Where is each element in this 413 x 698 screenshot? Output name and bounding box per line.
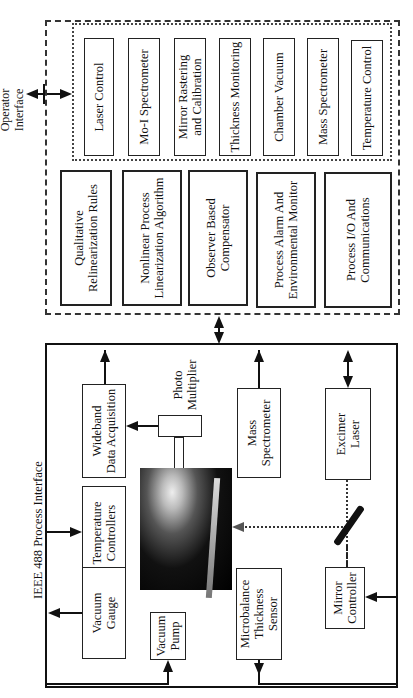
pump-label1: Vacuum <box>154 616 168 657</box>
process-alarm-box: Process Alarm AndEnvironmental Monitor <box>256 172 316 308</box>
nonlinear-label1: Nonlinear Process <box>138 177 152 298</box>
vacuum-pump-box: VacuumPump <box>150 612 186 660</box>
bus-to-pump-h <box>47 683 169 685</box>
photo-multiplier-box <box>158 415 202 437</box>
temp-arrow-icon <box>70 527 82 537</box>
operator-arrow-left-icon <box>26 89 38 99</box>
wideband-label1: Wideband <box>90 389 104 473</box>
observer-label2: Compensator <box>218 198 232 278</box>
mb-label1: Microbalance <box>238 580 252 649</box>
operator-label-line2: Interface <box>12 89 26 132</box>
mc-arrow-icon <box>365 592 377 602</box>
ms-label2: Spectrometer <box>259 400 273 467</box>
mb-to-bus <box>258 683 398 685</box>
gauge-label2: Gauge <box>104 593 118 634</box>
photo-label2: Multiplier <box>185 360 199 411</box>
gauge-arrow-icon <box>48 608 60 618</box>
wideband-arrow-icon <box>100 350 110 362</box>
photo-multiplier-label: PhotoMultiplier <box>170 360 200 410</box>
ieee488-bus-label: IEEE 488 Process Interface <box>30 470 46 590</box>
laser-control-label: Laser Control <box>92 62 106 131</box>
nonlinear-linearization-box: Nonlinear ProcessLinearization Algorithm <box>122 170 182 306</box>
ms-arrow-icon <box>254 350 264 362</box>
ieee488-label-text: IEEE 488 Process Interface <box>31 461 45 599</box>
operator-label-line1: Operator <box>0 89 12 132</box>
deposition-chamber-photo <box>140 468 232 590</box>
excimer-laser-box: ExcimerLaser <box>325 388 371 480</box>
temp-ctrl-label1: Temperature <box>90 502 104 565</box>
mirror-controller-box: MirrorController <box>325 567 365 629</box>
wideband-label2: Data Acquisition <box>104 389 118 473</box>
thickness-monitoring-box: Thickness Monitoring <box>219 38 251 156</box>
laser-label2: Laser <box>348 413 362 455</box>
laser-label1: Excimer <box>334 413 348 455</box>
thickness-monitoring-label: Thickness Monitoring <box>228 42 242 153</box>
mb-label2: Thickness <box>252 580 266 649</box>
gauge-label1: Vacuum <box>90 593 104 634</box>
mass-spectrometer-control-label: Mass Spectrometer <box>316 49 330 145</box>
mass-spectrometer-control-box: Mass Spectrometer <box>307 38 339 156</box>
observer-compensator-box: Observer BasedCompensator <box>188 170 248 306</box>
nonlinear-label2: Linearization Algorithm <box>152 177 166 298</box>
laser-beam-horizontal <box>238 526 346 528</box>
mo-i-spectrometer-label: Mo-I Spectrometer <box>137 49 151 144</box>
alarm-label1: Process Alarm And <box>272 181 286 299</box>
laser-arrow-down-icon <box>343 376 353 388</box>
photo-label1: Photo <box>171 360 185 411</box>
link-arrow-up-icon <box>214 316 224 328</box>
observer-label1: Observer Based <box>204 198 218 278</box>
microbalance-sensor-box: MicrobalanceThicknessSensor <box>236 568 282 660</box>
mirror-rastering-label1: Mirror Rastering <box>176 55 190 139</box>
operator-interface-label: OperatorInterface <box>0 70 24 150</box>
mirror-rastering-box: Mirror Rasteringand Calibration <box>174 38 206 156</box>
temperature-control-box: Temperature Control <box>351 40 383 156</box>
mo-i-spectrometer-box: Mo-I Spectrometer <box>128 38 160 156</box>
temp-ctrl-label2: Controllers <box>104 502 118 565</box>
temperature-controllers-box: TemperatureControllers <box>82 486 126 580</box>
mass-spectrometer-box: MassSpectrometer <box>237 388 281 478</box>
wideband-daq-box: WidebandData Acquisition <box>82 384 126 478</box>
mc-label1: Mirror <box>331 572 345 623</box>
mb-arrow-icon <box>254 663 264 675</box>
beam-arrow-icon <box>232 522 244 532</box>
alarm-label2: Environmental Monitor <box>286 181 300 299</box>
mb-label3: Sensor <box>266 580 280 649</box>
vacuum-gauge-box: VacuumGauge <box>82 567 126 659</box>
pump-arrow-icon <box>163 660 173 672</box>
chamber-vacuum-box: Chamber Vacuum <box>263 38 295 156</box>
chamber-vacuum-label: Chamber Vacuum <box>272 52 286 142</box>
process-io-label1: Process I/O And <box>344 197 358 282</box>
qualitative-relinearization-box: QualitativeRelinearization Rules <box>60 170 112 306</box>
pmt-arrow-icon <box>126 421 138 431</box>
process-io-box: Process I/O AndCommunications <box>324 172 392 308</box>
laser-arrow-up-icon <box>343 350 353 362</box>
ms-label1: Mass <box>245 400 259 467</box>
qualitative-label1: Qualitative <box>72 184 86 292</box>
pmt-light-pipe <box>174 437 184 469</box>
temperature-control-label: Temperature Control <box>360 46 374 150</box>
qualitative-label2: Relinearization Rules <box>86 184 100 292</box>
mirror-rastering-label2: and Calibration <box>190 55 204 139</box>
mc-label2: Controller <box>345 572 359 623</box>
laser-control-box: Laser Control <box>84 38 114 156</box>
mirror-link-dashed <box>346 545 348 567</box>
pump-label2: Pump <box>168 616 182 657</box>
process-io-label2: Communications <box>358 197 372 282</box>
